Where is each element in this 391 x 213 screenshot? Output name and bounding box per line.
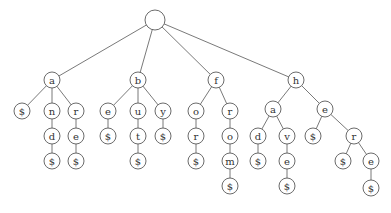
edge-root-a xyxy=(52,20,155,80)
node-label: e xyxy=(284,156,290,167)
end-marker-node: $ xyxy=(100,128,116,144)
end-marker-node: $ xyxy=(14,103,30,119)
node-label: a xyxy=(270,104,276,115)
node-label: e xyxy=(73,131,79,142)
node-circle xyxy=(145,10,165,30)
node-label: $ xyxy=(193,156,199,167)
node-label: y xyxy=(159,106,166,117)
edge-root-f xyxy=(155,20,216,80)
node-label: t xyxy=(136,131,140,142)
node-label: u xyxy=(135,106,142,117)
node-label: r xyxy=(194,131,199,142)
node-label: o xyxy=(193,106,199,117)
trie-node-a: a xyxy=(44,72,60,88)
trie-node-her: r xyxy=(346,128,362,144)
trie-node-fo: o xyxy=(188,103,204,119)
node-label: $ xyxy=(49,156,55,167)
end-marker-node: $ xyxy=(222,178,238,194)
trie-node-an: n xyxy=(44,103,60,119)
trie-node-be: e xyxy=(100,103,116,119)
trie-node-and: d xyxy=(44,128,60,144)
trie-node-h: h xyxy=(288,72,304,88)
end-marker-node: $ xyxy=(305,128,321,144)
node-label: o xyxy=(227,131,233,142)
node-label: e xyxy=(368,156,374,167)
node-label: $ xyxy=(160,131,166,142)
trie-diagram: abfh$nrde$$euy$t$$orro$m$aedv$r$e$e$$ xyxy=(0,0,391,213)
node-label: $ xyxy=(368,183,374,194)
end-marker-node: $ xyxy=(68,153,84,169)
node-label: a xyxy=(49,75,55,86)
end-marker-node: $ xyxy=(155,128,171,144)
node-label: $ xyxy=(340,156,346,167)
node-label: r xyxy=(74,106,79,117)
node-label: $ xyxy=(105,131,111,142)
end-marker-node: $ xyxy=(335,153,351,169)
node-label: e xyxy=(322,104,328,115)
node-label: d xyxy=(255,131,262,142)
trie-node-bu: u xyxy=(130,103,146,119)
trie-node-here: e xyxy=(363,153,379,169)
end-marker-node: $ xyxy=(250,153,266,169)
trie-node-but: t xyxy=(130,128,146,144)
trie-node-fro: o xyxy=(222,128,238,144)
node-label: n xyxy=(49,106,56,117)
trie-node-have: e xyxy=(279,153,295,169)
node-label: r xyxy=(228,106,233,117)
node-label: b xyxy=(135,75,141,86)
trie-node-by: y xyxy=(155,103,171,119)
trie-node-are: e xyxy=(68,128,84,144)
node-label: $ xyxy=(255,156,261,167)
trie-node-b: b xyxy=(130,72,146,88)
node-label: r xyxy=(352,131,357,142)
trie-node-for: r xyxy=(188,128,204,144)
node-label: e xyxy=(105,106,111,117)
node-label: $ xyxy=(73,156,79,167)
node-label: d xyxy=(49,131,56,142)
node-label: h xyxy=(293,75,300,86)
node-label: $ xyxy=(284,181,290,192)
end-marker-node: $ xyxy=(130,153,146,169)
end-marker-node: $ xyxy=(188,153,204,169)
end-marker-node: $ xyxy=(363,180,379,196)
trie-node-ha: a xyxy=(265,101,281,117)
trie-node-f: f xyxy=(208,72,224,88)
root-node xyxy=(145,10,165,30)
node-label: m xyxy=(225,156,235,167)
edge-root-h xyxy=(155,20,296,80)
node-label: $ xyxy=(135,156,141,167)
trie-node-hav: v xyxy=(279,128,295,144)
end-marker-node: $ xyxy=(44,153,60,169)
node-label: $ xyxy=(19,106,25,117)
node-label: $ xyxy=(227,181,233,192)
node-label: $ xyxy=(310,131,316,142)
trie-node-had: d xyxy=(250,128,266,144)
trie-node-he: e xyxy=(317,101,333,117)
trie-node-from: m xyxy=(222,153,238,169)
end-marker-node: $ xyxy=(279,178,295,194)
node-label: v xyxy=(283,131,290,142)
trie-node-ar: r xyxy=(68,103,84,119)
trie-node-fr: r xyxy=(222,103,238,119)
